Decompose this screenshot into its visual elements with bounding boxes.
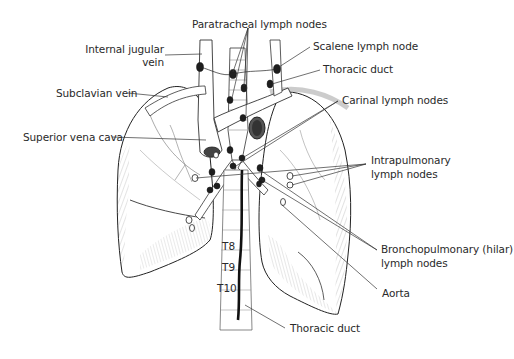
anatomy-diagram: Paratracheal lymph nodes Internal jugula… [0, 0, 514, 359]
label-thoracic-duct-bottom: Thoracic duct [290, 322, 360, 335]
label-superior-vena-cava: Superior vena cava [23, 131, 123, 144]
label-subclavian-vein: Subclavian vein [56, 87, 137, 100]
label-bronchopulmonary-line2: lymph nodes [381, 257, 448, 270]
label-internal-jugular-vein-line2: vein [82, 56, 164, 69]
label-internal-jugular-vein-line1: Internal jugular [82, 43, 164, 56]
label-intrapulmonary-line2: lymph nodes [371, 168, 438, 181]
vertebra-label-t10: T10 [217, 282, 237, 294]
vertebra-label-t9: T9 [222, 261, 235, 273]
label-intrapulmonary-line1: Intrapulmonary [371, 154, 451, 167]
label-paratracheal-lymph-nodes: Paratracheal lymph nodes [192, 18, 327, 31]
vertebra-label-t8: T8 [222, 240, 235, 252]
label-scalene-lymph-node: Scalene lymph node [313, 40, 418, 53]
label-bronchopulmonary-line1: Bronchopulmonary (hilar) [381, 243, 513, 256]
label-carinal-lymph-nodes: Carinal lymph nodes [342, 94, 448, 107]
left-lung [259, 89, 351, 314]
label-thoracic-duct-top: Thoracic duct [323, 63, 393, 76]
label-aorta: Aorta [382, 287, 410, 300]
